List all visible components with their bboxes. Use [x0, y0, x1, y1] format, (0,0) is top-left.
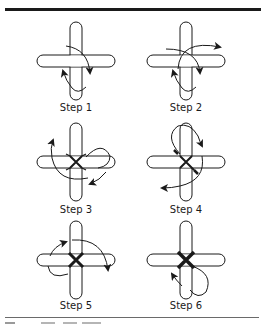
step-6-panel	[147, 221, 225, 299]
step-5-panel	[37, 221, 115, 299]
step-1-panel	[37, 22, 115, 100]
steps-diagram: Step 1 Step 2 Step 3 Step 4 Step 5	[0, 0, 266, 326]
step-3-panel	[37, 123, 115, 201]
step-3-label: Step 3	[60, 204, 92, 215]
cropped-caption	[5, 322, 125, 326]
step-4-panel	[147, 123, 225, 201]
step-1-label: Step 1	[60, 102, 92, 113]
bottom-rule	[5, 317, 259, 318]
step-2-panel	[147, 22, 225, 100]
step-4-label: Step 4	[170, 204, 202, 215]
step-2-label: Step 2	[170, 102, 202, 113]
step-5-label: Step 5	[60, 300, 92, 311]
step-6-label: Step 6	[170, 300, 202, 311]
